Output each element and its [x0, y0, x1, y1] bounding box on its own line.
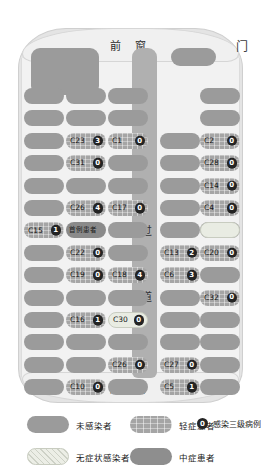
legend-item-asymptomatic: 无症状感染者	[27, 448, 130, 465]
seat[interactable]: C300	[108, 312, 148, 328]
legend-item-tier3-count: 0 感染三级病例数	[197, 418, 261, 429]
seat[interactable]: C170	[108, 200, 148, 216]
seat[interactable]: C63	[160, 267, 200, 283]
seat-tier3-count-badge: 4	[93, 203, 104, 214]
seat-id-label: C14	[200, 182, 219, 190]
seat-empty	[200, 110, 240, 126]
seat-asymptomatic-unlabeled	[200, 222, 240, 238]
seat-empty	[108, 222, 148, 238]
seat-id-label: C4	[200, 204, 214, 212]
seat-tier3-count-badge: 0	[135, 203, 146, 214]
door-label: 门	[232, 40, 249, 52]
seat-empty	[24, 110, 64, 126]
seat[interactable]: C320	[200, 290, 240, 306]
legend-label-uninfected: 未感染者	[76, 419, 112, 431]
seat[interactable]: C270	[160, 357, 200, 373]
bus-cabin	[21, 58, 240, 377]
seat-empty	[24, 267, 64, 283]
seat-tier3-count-badge: 0	[227, 180, 238, 191]
seat-empty	[160, 222, 200, 238]
seat-empty	[66, 110, 106, 126]
seat-tier3-count-badge: 3	[93, 136, 104, 147]
seat[interactable]: C132	[160, 245, 200, 261]
seat-empty	[200, 88, 240, 104]
seat-empty	[108, 290, 148, 306]
seat-id-label: C16	[66, 316, 85, 324]
seat-empty	[24, 312, 64, 328]
seat-empty	[24, 88, 64, 104]
seat[interactable]: 首例患者	[66, 222, 106, 238]
legend: 未感染者 轻症患者 0 感染三级病例数 无症状感染者 中症患者	[0, 408, 261, 471]
seat[interactable]: C140	[200, 178, 240, 194]
seat-id-label: C23	[66, 137, 85, 145]
seat-id-label: C13	[160, 249, 179, 257]
seat[interactable]: C200	[200, 245, 240, 261]
seat-empty	[108, 88, 148, 104]
seat[interactable]: C260	[108, 357, 148, 373]
seat[interactable]: C184	[108, 267, 148, 283]
seat-tier3-count-badge: 0	[227, 158, 238, 169]
seat-id-label: C27	[160, 361, 179, 369]
seat-id-label: C31	[66, 159, 85, 167]
seat-id-label: C5	[160, 383, 174, 391]
seat[interactable]: C280	[200, 155, 240, 171]
seat-id-label: C10	[66, 383, 85, 391]
seat-id-label: C18	[108, 271, 127, 279]
seat-tier3-count-badge: 0	[227, 203, 238, 214]
seat-empty	[24, 200, 64, 216]
seat-id-label: C19	[66, 271, 85, 279]
seat-tier3-count-badge: 3	[187, 270, 198, 281]
legend-label-asymptomatic: 无症状感染者	[76, 451, 130, 463]
seat[interactable]: C10	[108, 133, 148, 149]
seat-empty	[66, 88, 106, 104]
seat-empty	[160, 334, 200, 350]
seat-tier3-count-badge: 0	[93, 382, 104, 393]
legend-count-badge-icon: 0	[197, 418, 208, 429]
seat-id-label: C20	[200, 249, 219, 257]
seat-empty	[108, 379, 148, 395]
seat-id-label: C30	[109, 316, 128, 324]
seat[interactable]: C220	[66, 245, 106, 261]
seat-empty	[160, 155, 200, 171]
seat-empty	[66, 290, 106, 306]
seat-empty	[108, 110, 148, 126]
seat[interactable]: C310	[66, 155, 106, 171]
seat-tier3-count-badge: 0	[227, 248, 238, 259]
seat[interactable]: C51	[160, 379, 200, 395]
seat-empty	[200, 312, 240, 328]
seat-id-label: C28	[200, 159, 219, 167]
seat-empty	[108, 155, 148, 171]
seat-tier3-count-badge: 0	[227, 292, 238, 303]
seat-id-label: 首例患者	[66, 227, 97, 234]
seat[interactable]: C161	[66, 312, 106, 328]
legend-swatch-mild	[130, 416, 172, 433]
seat[interactable]: C264	[66, 200, 106, 216]
legend-label-moderate: 中症患者	[179, 451, 215, 463]
seat-id-label: C15	[24, 227, 43, 235]
seat-empty	[200, 357, 240, 373]
seat-empty	[24, 357, 64, 373]
seat[interactable]: C151	[24, 222, 64, 238]
seat-empty	[108, 334, 148, 350]
seat-empty	[66, 334, 106, 350]
seat-tier3-count-badge: 0	[93, 270, 104, 281]
seat-empty	[200, 379, 240, 395]
seat-tier3-count-badge: 4	[135, 270, 146, 281]
seat-tier3-count-badge: 0	[135, 360, 146, 371]
seat[interactable]: C233	[66, 133, 106, 149]
seat-empty	[200, 267, 240, 283]
seat-empty	[200, 334, 240, 350]
seat[interactable]: C100	[66, 379, 106, 395]
seat-empty	[160, 133, 200, 149]
seat[interactable]: C20	[200, 133, 240, 149]
seat-empty	[160, 312, 200, 328]
seat[interactable]: C190	[66, 267, 106, 283]
seat-empty	[66, 357, 106, 373]
seat-empty	[24, 290, 64, 306]
top-margin	[0, 0, 261, 10]
legend-swatch-asymptomatic	[27, 448, 69, 465]
seat-tier3-count-badge: 0	[187, 360, 198, 371]
seat[interactable]: C40	[200, 200, 240, 216]
legend-item-moderate: 中症患者	[130, 448, 215, 465]
seat-id-label: C6	[160, 271, 174, 279]
